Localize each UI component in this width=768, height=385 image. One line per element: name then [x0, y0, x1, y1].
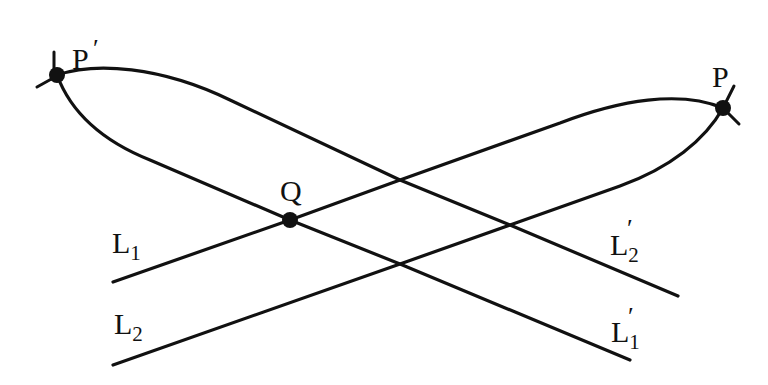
label-p-prime-base: P	[72, 42, 89, 75]
label-l2-prime: L2	[610, 230, 639, 266]
label-l2-prime-sub: 2	[628, 243, 639, 267]
label-p-prime-mark: ′	[93, 36, 99, 62]
label-l1-prime-mark: ′	[628, 304, 634, 330]
label-p-prime: P	[72, 44, 89, 74]
label-l2-prime-base: L	[610, 228, 628, 261]
curve-l1-prime	[57, 75, 630, 360]
curve-l2-prime	[57, 68, 678, 296]
label-l2-sub: 2	[132, 322, 143, 346]
label-l1: L1	[112, 228, 141, 264]
label-l1-base: L	[112, 226, 130, 259]
point-p-prime	[49, 67, 65, 83]
label-l2-prime-mark: ′	[627, 216, 633, 242]
label-l2-base: L	[114, 307, 132, 340]
label-l2: L2	[114, 309, 143, 345]
label-q-base: Q	[280, 174, 302, 207]
label-q: Q	[280, 176, 302, 206]
label-l1-prime-base: L	[611, 315, 629, 348]
label-l1-prime-sub: 1	[629, 330, 640, 354]
point-p	[715, 100, 731, 116]
point-q	[282, 212, 298, 228]
label-l1-sub: 1	[130, 241, 141, 265]
label-p: P	[712, 62, 729, 92]
label-p-base: P	[712, 60, 729, 93]
label-l1-prime: L1	[611, 317, 640, 353]
